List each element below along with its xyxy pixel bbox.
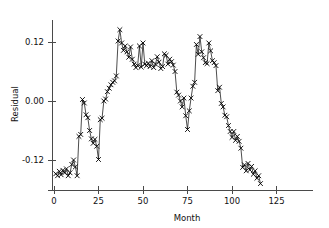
x-tick-label: 100	[224, 196, 240, 206]
residual-line-chart: -0.120.000.12 0255075100125 Month Residu…	[0, 0, 329, 228]
x-tick-label: 75	[182, 196, 193, 206]
y-tick-label: 0.00	[25, 96, 44, 106]
y-tick-label: -0.12	[22, 155, 44, 165]
y-axis: -0.120.000.12	[22, 20, 56, 190]
y-axis-title: Residual	[10, 86, 20, 122]
y-tick-label: 0.12	[25, 37, 44, 47]
chart-figure: -0.120.000.12 0255075100125 Month Residu…	[0, 0, 329, 228]
x-tick-label: 50	[138, 196, 149, 206]
x-axis: 0255075100125	[48, 186, 313, 206]
x-tick-label: 125	[268, 196, 284, 206]
y-axis-ticks: -0.120.000.12	[22, 37, 56, 165]
x-tick-label: 0	[51, 196, 56, 206]
x-axis-ticks: 0255075100125	[51, 186, 284, 206]
x-axis-title: Month	[174, 213, 201, 223]
data-series-residual	[54, 28, 263, 186]
x-tick-label: 25	[93, 196, 104, 206]
series-line	[56, 30, 261, 184]
